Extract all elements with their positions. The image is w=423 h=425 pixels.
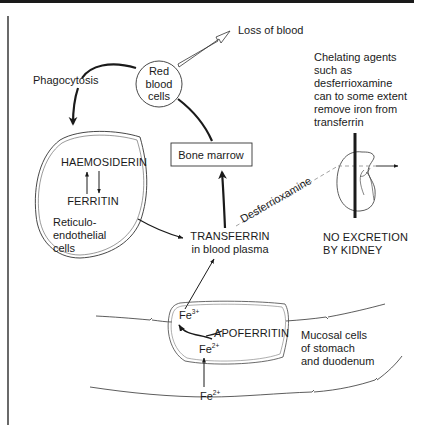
reticuloendothelial-label-1: Reticulo- xyxy=(53,216,97,228)
fe2-outer-label: Fe2+ xyxy=(200,389,220,402)
desferrioxamine-label: Desferrioxamine xyxy=(238,174,313,224)
red-blood-cells-label-1: Red xyxy=(149,65,169,77)
no-excretion-label-2: BY KIDNEY xyxy=(323,244,383,256)
loss-of-blood-label: Loss of blood xyxy=(238,24,303,36)
mucosal-label-2: of stomach xyxy=(301,342,355,354)
chelating-note-line-2: such as xyxy=(314,64,352,76)
fe2-inner-label: Fe2+ xyxy=(199,342,219,355)
red-blood-cells-label-2: blood xyxy=(146,78,173,90)
bone-marrow-node: Bone marrow xyxy=(171,143,252,166)
ferritin-label: FERRITIN xyxy=(67,195,119,207)
kidney-icon xyxy=(337,152,398,211)
apoferritin-label: APOFERRITIN xyxy=(214,327,289,339)
rbc-bone-marrow-line xyxy=(178,99,212,141)
mucosa-upper-line xyxy=(96,304,385,322)
transferrin-label-2: in blood plasma xyxy=(191,243,269,255)
chelating-note: Chelating agents such as desferrioxamine… xyxy=(314,51,407,128)
iron-metabolism-diagram: Red blood cells Loss of blood Phagocytos… xyxy=(0,0,423,425)
mucosal-label-3: and duodenum xyxy=(301,355,374,367)
reticuloendothelial-label-2: endothelial xyxy=(53,229,106,241)
fe2-to-fe3-curved-arrow xyxy=(179,325,212,339)
re-to-transferrin-arrow xyxy=(138,219,183,238)
red-blood-cells-label-3: cells xyxy=(148,90,171,102)
phagocytosis-label: Phagocytosis xyxy=(33,74,99,86)
transferrin-label-1: TRANSFERRIN xyxy=(190,230,269,242)
bone-marrow-label: Bone marrow xyxy=(178,149,243,161)
fe3-label: Fe3+ xyxy=(179,308,199,321)
reticuloendothelial-label-3: cells xyxy=(53,242,76,254)
transferrin-to-bone-marrow-arrow xyxy=(222,172,225,228)
chelating-note-line-4: can to some extent xyxy=(314,90,407,102)
chelating-note-line-1: Chelating agents xyxy=(314,51,397,63)
haemosiderin-label: HAEMOSIDERIN xyxy=(61,156,147,168)
mucosal-label-1: Mucosal cells xyxy=(301,329,368,341)
red-blood-cells-node: Red blood cells xyxy=(136,61,182,107)
no-excretion-label-1: NO EXCRETION xyxy=(323,231,408,243)
chelating-note-line-6: transferrin xyxy=(314,116,364,128)
chelating-note-line-3: desferrioxamine xyxy=(314,77,392,89)
top-border-rule xyxy=(0,0,414,3)
loss-of-blood-arrow xyxy=(178,31,230,67)
chelating-note-line-5: remove iron from xyxy=(314,103,397,115)
